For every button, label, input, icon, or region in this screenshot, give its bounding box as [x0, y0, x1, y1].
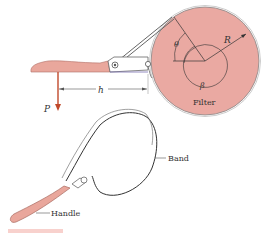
handle-shape [31, 61, 110, 72]
radius-label: R [223, 35, 231, 45]
beta-label: β [199, 81, 205, 90]
distance-label: h [98, 85, 104, 95]
force-label: P [43, 104, 51, 114]
band-label: Band [168, 154, 189, 163]
handle-label: Handle [51, 209, 81, 218]
theta-label: θ [174, 40, 179, 49]
caption-remnant [8, 229, 63, 233]
filter-wrench-diagram: P h θ β R Filter Band Handle [0, 0, 264, 233]
filter-label: Filter [193, 98, 216, 107]
